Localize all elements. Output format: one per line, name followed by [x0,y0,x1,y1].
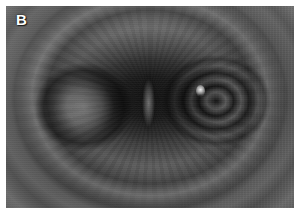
corner-vignette [6,6,294,208]
endoscopic-image: B [6,6,294,208]
figure-panel: B [0,0,300,217]
panel-label: B [16,12,27,27]
